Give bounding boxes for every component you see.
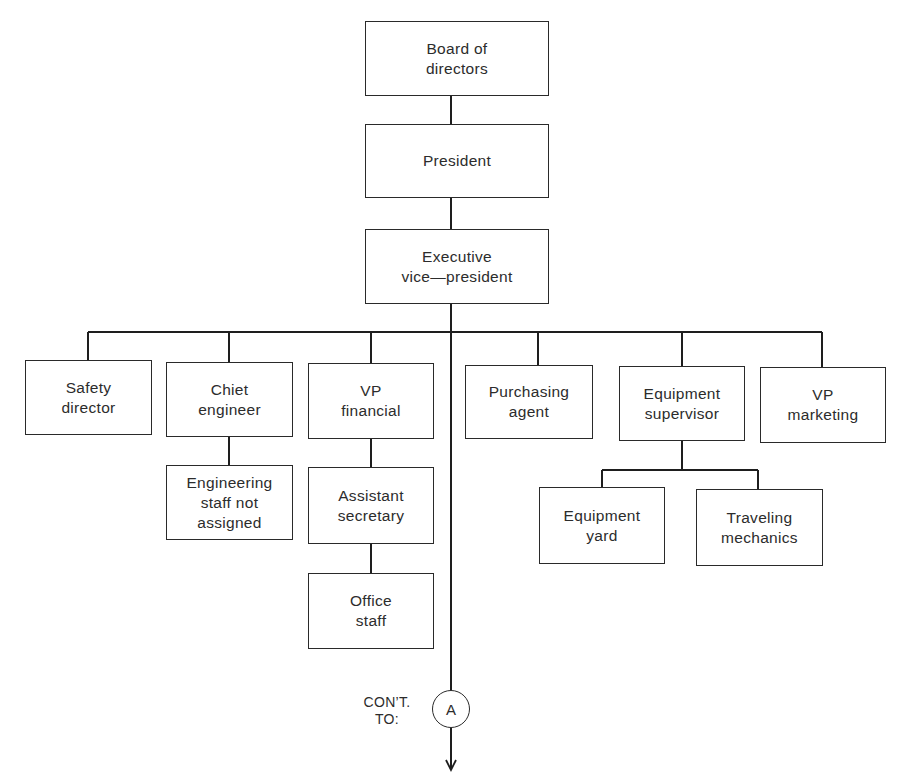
node-president: President [365, 124, 549, 198]
node-engineering-staff: Engineering staff not assigned [166, 465, 293, 540]
node-chief-engineer: Chiet engineer [166, 362, 293, 437]
node-vp-marketing: VP marketing [760, 367, 886, 443]
node-equipment-supervisor: Equipment supervisor [619, 366, 745, 441]
node-safety-director: Safety director [25, 360, 152, 435]
continuation-label: CON’T. TO: [352, 694, 422, 728]
node-traveling-mechanics: Traveling mechanics [696, 489, 823, 566]
node-board-of-directors: Board of directors [365, 21, 549, 96]
node-assistant-secretary: Assistant secretary [308, 467, 434, 544]
node-purchasing-agent: Purchasing agent [465, 365, 593, 439]
node-office-staff: Office staff [308, 573, 434, 649]
node-equipment-yard: Equipment yard [539, 487, 665, 564]
continuation-connector-a: A [432, 690, 470, 728]
node-executive-vice-president: Executive vice—president [365, 229, 549, 304]
node-vp-financial: VP financial [308, 363, 434, 439]
